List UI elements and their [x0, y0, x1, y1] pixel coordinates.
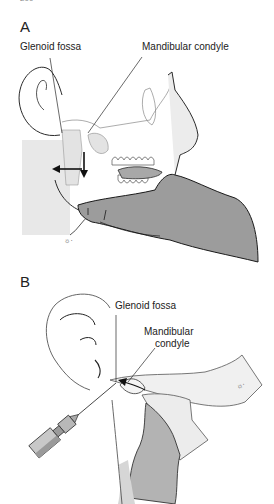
neck-shading [22, 140, 70, 235]
ear-outline-b [46, 294, 110, 390]
tragus [95, 360, 100, 378]
orbit-outline [142, 88, 155, 125]
leader-mandibular-condyle-a [88, 57, 142, 133]
leader-glenoid-fossa-a [50, 58, 62, 133]
gloved-hand [78, 174, 258, 262]
nose-outline [168, 72, 198, 175]
ear-outline [19, 67, 62, 135]
zygomatic [88, 133, 108, 153]
ear-inner [37, 80, 47, 110]
neck-outline [112, 400, 122, 504]
syringe [29, 408, 84, 458]
illustration-panel-b: ☼· [0, 270, 274, 504]
ear-inner-b [60, 314, 96, 345]
teeth-upper [112, 157, 154, 165]
thumb-in-mouth [118, 167, 162, 179]
illustration-panel-a: ☼· [0, 0, 274, 270]
artist-signature-a: ☼· [64, 237, 73, 244]
